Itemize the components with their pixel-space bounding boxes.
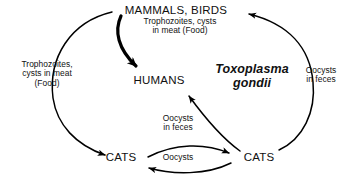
node-cats-right: CATS: [234, 151, 284, 164]
edge-label-right-oocysts-in-feces: Oocysts in feces: [295, 66, 347, 85]
edge-label-bottom-oocysts: Oocysts: [150, 153, 206, 162]
edge-label-left-trophozoites-cysts-in-meat: Trophozoites, cysts in meat (Food): [7, 60, 87, 88]
arrow-cats-right-to-cats-left: [149, 163, 231, 173]
edge-label-top-trophozoites-cysts-in-meat: Trophozoites, cysts in meat (Food): [131, 17, 229, 36]
toxoplasma-lifecycle-diagram: MAMMALS, BIRDS HUMANS CATS CATS Trophozo…: [0, 0, 351, 179]
node-humans: HUMANS: [124, 74, 194, 87]
node-cats-left: CATS: [96, 151, 146, 164]
edge-label-middle-oocysts-in-feces: Oocysts in feces: [151, 114, 205, 133]
species-title-line-1: Toxoplasma: [215, 62, 288, 76]
node-mammals-birds: MAMMALS, BIRDS: [118, 4, 234, 17]
species-title: Toxoplasmagondii: [206, 62, 298, 91]
species-title-line-2: gondii: [233, 76, 271, 90]
